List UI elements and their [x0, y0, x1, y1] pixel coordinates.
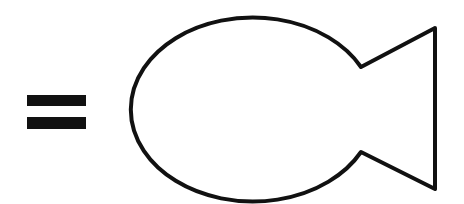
diagram-canvas [0, 0, 464, 204]
equals-bottom-bar [27, 117, 86, 129]
equation-figure [0, 0, 464, 204]
equals-top-bar [27, 95, 86, 106]
